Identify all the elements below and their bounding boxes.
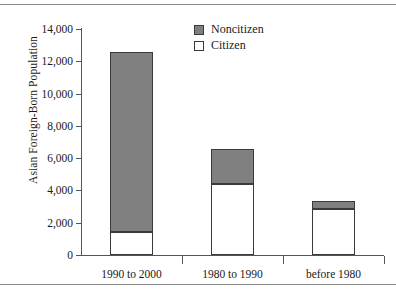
y-tick-label: 2,000 xyxy=(47,217,73,229)
bar-group-1[interactable] xyxy=(110,29,153,255)
y-tick-12000 xyxy=(76,61,81,62)
legend-label: Citizen xyxy=(211,38,246,53)
y-tick-label: 14,000 xyxy=(41,23,73,35)
bar-segment-citizen[interactable] xyxy=(211,184,254,255)
legend-swatch-icon xyxy=(194,41,204,51)
figure-top-rule xyxy=(0,4,396,5)
bar-group-3[interactable] xyxy=(312,29,355,255)
y-tick-4000 xyxy=(76,190,81,191)
legend-item-citizen[interactable]: Citizen xyxy=(194,38,264,53)
x-axis-label-2: 1980 to 1990 xyxy=(202,268,263,280)
x-axis-label-3: before 1980 xyxy=(306,268,361,280)
plot-area: 02,0004,0006,0008,00010,00012,00014,000 … xyxy=(81,29,384,255)
y-tick-14000 xyxy=(76,29,81,30)
bar-group-2[interactable] xyxy=(211,29,254,255)
y-tick-8000 xyxy=(76,126,81,127)
chart-figure: Asian Foreign-Born Population 02,0004,00… xyxy=(0,0,396,293)
legend-label: Noncitizen xyxy=(211,22,264,37)
bar-segment-noncitizen[interactable] xyxy=(211,149,254,184)
x-tick xyxy=(182,256,183,264)
y-tick-label: 10,000 xyxy=(41,88,73,100)
x-tick xyxy=(384,256,385,264)
bar-segment-noncitizen[interactable] xyxy=(110,52,153,231)
y-axis-title: Asian Foreign-Born Population xyxy=(27,0,39,225)
y-tick-label: 0 xyxy=(67,249,73,261)
bar-segment-citizen[interactable] xyxy=(110,232,153,255)
y-tick-6000 xyxy=(76,158,81,159)
legend-item-noncitizen[interactable]: Noncitizen xyxy=(194,22,264,37)
legend-swatch-icon xyxy=(194,25,204,35)
chart-legend: NoncitizenCitizen xyxy=(194,22,264,54)
bar-segment-citizen[interactable] xyxy=(312,209,355,255)
x-axis-line xyxy=(81,255,384,256)
y-tick-label: 6,000 xyxy=(47,152,73,164)
y-tick-label: 8,000 xyxy=(47,120,73,132)
y-axis-line xyxy=(81,28,82,256)
y-tick-0 xyxy=(76,255,81,256)
y-tick-label: 12,000 xyxy=(41,55,73,67)
figure-bottom-rule xyxy=(0,284,396,285)
y-tick-2000 xyxy=(76,223,81,224)
x-axis-label-1: 1990 to 2000 xyxy=(101,268,162,280)
bar-segment-noncitizen[interactable] xyxy=(312,201,355,209)
y-tick-label: 4,000 xyxy=(47,184,73,196)
y-tick-10000 xyxy=(76,94,81,95)
x-tick xyxy=(283,256,284,264)
